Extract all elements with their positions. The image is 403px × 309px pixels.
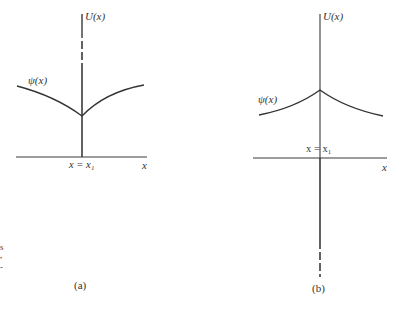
margin-mark-1: s <box>0 243 4 252</box>
panel-a-psi-curve <box>17 85 144 116</box>
panel-a-u-label: U(x) <box>85 11 105 22</box>
panel-b-position-label: x = x₁ <box>306 144 331 155</box>
panel-a-x-axis-label: x <box>142 160 147 171</box>
margin-mark-3: - <box>0 263 3 272</box>
panel-a-psi-label: ψ(x) <box>28 75 47 86</box>
panel-b-psi-label: ψ(x) <box>258 94 277 105</box>
panel-a-position-label: x = x₁ <box>69 160 94 171</box>
panel-b-x-axis-label: x <box>382 162 387 173</box>
panel-b-psi-curve <box>259 90 383 116</box>
panel-b-caption: (b) <box>312 283 325 294</box>
panel-b-u-label: U(x) <box>323 11 343 22</box>
margin-mark-2: • <box>0 255 2 261</box>
panel-a-caption: (a) <box>74 280 86 291</box>
figure-canvas <box>0 0 403 309</box>
